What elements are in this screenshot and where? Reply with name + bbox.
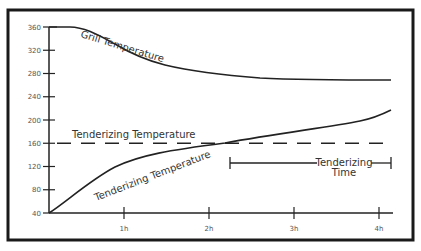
y-tick-label: 40 bbox=[32, 210, 41, 218]
reference-line-label: Tenderizing Temperature bbox=[71, 129, 196, 140]
x-tick-label: 1h bbox=[120, 225, 129, 233]
tenderizing-chart: 40 80 120 160 200 240 280 320 360 1h 2h … bbox=[0, 0, 421, 251]
y-tick-label: 80 bbox=[32, 186, 41, 194]
y-tick-label: 280 bbox=[28, 70, 41, 78]
bracket-label-line2: Time bbox=[331, 167, 356, 178]
y-tick-label: 160 bbox=[28, 140, 41, 148]
x-tick-label: 2h bbox=[205, 225, 214, 233]
y-tick-label: 120 bbox=[28, 163, 41, 171]
y-tick-label: 320 bbox=[28, 47, 41, 55]
y-tick-label: 200 bbox=[28, 117, 41, 125]
x-tick-label: 4h bbox=[375, 225, 384, 233]
chart-frame bbox=[8, 10, 413, 240]
x-tick-label: 3h bbox=[290, 225, 299, 233]
y-tick-label: 360 bbox=[28, 24, 41, 32]
y-tick-label: 240 bbox=[28, 93, 41, 101]
